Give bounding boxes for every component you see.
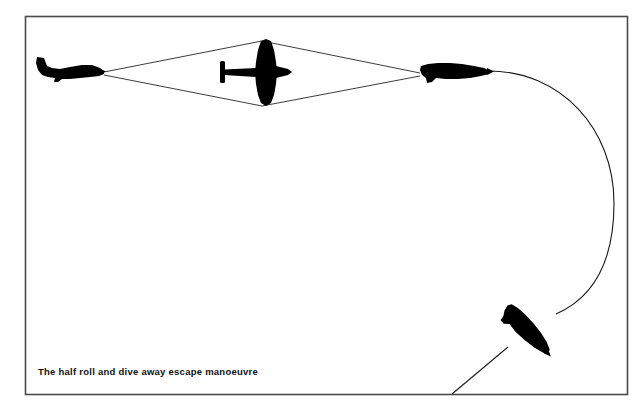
figure-caption: The half roll and dive away escape manoe… <box>38 366 258 377</box>
aircraft-bottom-diving <box>496 301 558 365</box>
aircraft-center-rolling <box>220 39 292 106</box>
dive-exit-line <box>452 347 508 394</box>
escape-arc <box>489 71 614 314</box>
figure-container: The half roll and dive away escape manoe… <box>0 0 644 412</box>
aircraft-left-level <box>36 57 106 82</box>
manoeuvre-diagram <box>0 0 644 412</box>
aircraft-right-inverted <box>420 63 494 83</box>
